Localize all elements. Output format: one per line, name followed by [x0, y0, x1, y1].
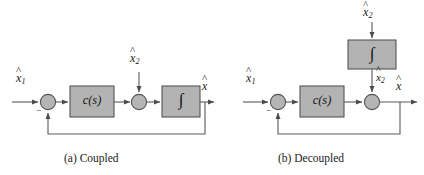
- panel-b-integrator-output-label: ^ x 2: [376, 72, 385, 85]
- panel-a-sum-junction-1: [40, 94, 55, 109]
- panel-a-sum-minus-sign: −: [36, 106, 41, 115]
- hat-accent-icon: ^: [363, 0, 368, 10]
- panel-b-output-label: ^ x: [396, 80, 401, 92]
- panel-b-sum-junction-1: [270, 94, 285, 109]
- panel-a-reference-input-label: ^ x 1: [16, 72, 26, 86]
- panel-b-integrator-label: ∫: [348, 45, 396, 62]
- hat-accent-icon: ^: [376, 65, 381, 75]
- hat-accent-icon: ^: [16, 65, 21, 76]
- hat-accent-icon: ^: [202, 73, 207, 84]
- panel-b-reference-input-label: ^ x 1: [246, 72, 256, 86]
- panel-a-controller-label: c(s): [70, 94, 114, 107]
- panel-b-sum-junction-2: [364, 94, 379, 109]
- panel-b-controller-label: c(s): [300, 94, 344, 107]
- figure-block-diagram: ^ x 1 − c(s) ^ x 2 ∫ ^ x (a) Coupled ^ x…: [0, 0, 424, 175]
- panel-b-sum-minus-sign: −: [266, 106, 271, 115]
- hat-accent-icon: ^: [396, 73, 401, 84]
- panel-b-caption: (b) Decoupled: [278, 152, 344, 164]
- panel-a-sum-junction-2: [131, 94, 146, 109]
- panel-a-injected-input-label: ^ x 2: [130, 52, 140, 66]
- panel-b-top-input-label: ^ ^ x 2: [363, 6, 373, 20]
- diagram-canvas: [0, 0, 424, 175]
- panel-a-caption: (a) Coupled: [64, 152, 119, 164]
- hat-accent-icon: ^: [130, 45, 135, 56]
- panel-a-output-label: ^ x: [202, 80, 207, 92]
- panel-b-graphics: [243, 22, 417, 134]
- panel-a-integrator-label: ∫: [162, 91, 200, 108]
- hat-accent-icon: ^: [246, 65, 251, 76]
